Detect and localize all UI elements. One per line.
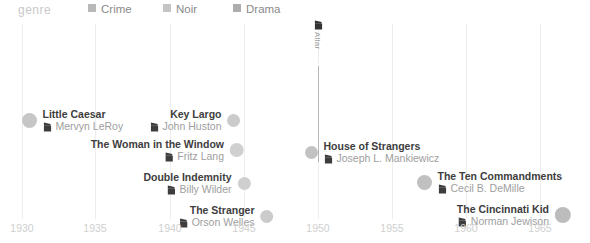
film-bubble[interactable]: [305, 146, 318, 159]
film-text: Little CaesarMervyn LeRoy: [43, 108, 124, 132]
film-title: The Stranger: [190, 204, 255, 216]
film-bubble[interactable]: [228, 114, 241, 127]
clapperboard-icon: [164, 151, 173, 161]
clapperboard-icon: [150, 121, 159, 131]
gridline-1955: [392, 24, 393, 219]
clapperboard-icon: [167, 184, 176, 194]
film-title: Key Largo: [170, 108, 221, 120]
plot-area: AllarLittle CaesarMervyn LeRoyKey LargoJ…: [0, 24, 590, 219]
film-entry[interactable]: House of StrangersJoseph L. Mankiewicz: [305, 137, 440, 167]
film-bubble[interactable]: [230, 143, 244, 157]
film-title: The Cincinnati Kid: [457, 203, 549, 215]
film-title: House of Strangers: [324, 140, 421, 152]
film-entry[interactable]: The Woman in the WindowFritz Lang: [91, 135, 244, 165]
axis-tick-label-1965: 1965: [528, 222, 551, 234]
film-text: The Ten CommandmentsCecil B. DeMille: [438, 170, 563, 194]
film-title: Double Indemnity: [143, 171, 231, 183]
legend-label: Drama: [246, 3, 281, 15]
film-director: John Huston: [163, 120, 222, 132]
film-title: The Ten Commandments: [438, 170, 563, 182]
film-director-row: Cecil B. DeMille: [438, 182, 525, 194]
film-marker-icon: [314, 16, 323, 27]
film-entry[interactable]: Double IndemnityBilly Wilder: [143, 168, 250, 198]
film-director: Joseph L. Mankiewicz: [337, 152, 440, 164]
legend-swatch-drama: [233, 4, 241, 12]
axis-tick-label-1945: 1945: [232, 222, 255, 234]
axis-tick-label-1935: 1935: [83, 222, 106, 234]
film-director-row: Billy Wilder: [167, 183, 232, 195]
clapperboard-icon: [43, 121, 52, 131]
legend-swatch-noir: [163, 4, 171, 12]
film-entry[interactable]: Little CaesarMervyn LeRoy: [22, 105, 124, 135]
legend-label: Crime: [101, 3, 132, 15]
film-text: The Woman in the WindowFritz Lang: [91, 138, 224, 162]
legend-item-noir[interactable]: Noir: [163, 3, 197, 15]
film-bubble[interactable]: [417, 175, 432, 190]
film-text: House of StrangersJoseph L. Mankiewicz: [324, 140, 440, 164]
axis-tick-label-1950: 1950: [306, 222, 329, 234]
film-text: Double IndemnityBilly Wilder: [143, 171, 231, 195]
film-bubble[interactable]: [22, 113, 37, 128]
film-director: Fritz Lang: [177, 150, 224, 162]
film-director: Mervyn LeRoy: [56, 120, 124, 132]
film-director: Billy Wilder: [180, 183, 232, 195]
film-bubble[interactable]: [238, 177, 251, 190]
axis-tick-label-1930: 1930: [10, 222, 33, 234]
film-director-row: John Huston: [150, 120, 222, 132]
axis-tick-label-1955: 1955: [380, 222, 403, 234]
legend: genre CrimeNoirDrama: [0, 0, 590, 24]
axis-tick-label-1960: 1960: [454, 222, 477, 234]
film-director-row: Fritz Lang: [164, 150, 224, 162]
film-entry[interactable]: Key LargoJohn Huston: [150, 105, 241, 135]
film-title: The Woman in the Window: [91, 138, 224, 150]
legend-label: Noir: [176, 3, 197, 15]
clapperboard-icon: [438, 183, 447, 193]
legend-swatch-crime: [88, 4, 96, 12]
x-axis: 19301935194019451950195519601965: [0, 219, 590, 243]
film-director-row: Joseph L. Mankiewicz: [324, 152, 440, 164]
clapperboard-icon: [324, 153, 333, 163]
axis-tick-label-1940: 1940: [158, 222, 181, 234]
legend-item-drama[interactable]: Drama: [233, 3, 281, 15]
film-text: Key LargoJohn Huston: [150, 108, 222, 132]
film-director-row: Mervyn LeRoy: [43, 120, 124, 132]
annotation-label: Allar: [313, 32, 322, 50]
film-entry[interactable]: The Ten CommandmentsCecil B. DeMille: [417, 167, 563, 197]
film-director: Cecil B. DeMille: [451, 182, 525, 194]
legend-item-crime[interactable]: Crime: [88, 3, 132, 15]
film-title: Little Caesar: [43, 108, 106, 120]
legend-title: genre: [18, 3, 51, 17]
